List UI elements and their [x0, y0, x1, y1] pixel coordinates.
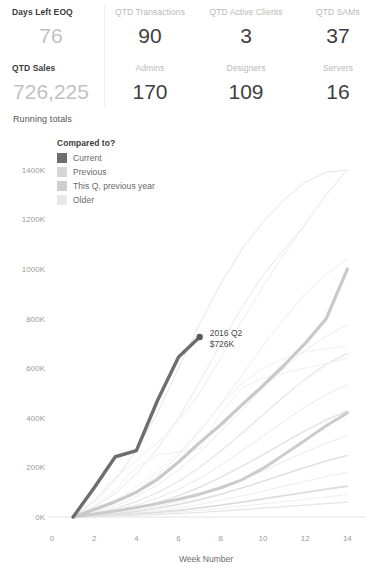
x-axis-tick-label: 12: [301, 534, 310, 543]
x-axis-tick-label: 0: [50, 534, 55, 543]
annotation-marker[interactable]: [196, 334, 202, 340]
legend-item-label: Previous: [73, 167, 106, 177]
kpi-value: 109: [228, 79, 263, 105]
x-axis-tick-label: 4: [134, 534, 139, 543]
kpi-qtd-active-clients[interactable]: QTD Active Clients 3: [196, 0, 296, 56]
legend-item-this-q-previous-year[interactable]: This Q, previous year: [57, 179, 217, 193]
kpi-value: 3: [240, 23, 252, 49]
legend-item-label: Older: [73, 195, 94, 205]
x-axis-tick-label: 10: [259, 534, 268, 543]
legend-item-current[interactable]: Current: [57, 151, 217, 165]
chart-line-previous[interactable]: [73, 269, 347, 517]
kpi-qtd-transactions[interactable]: QTD Transactions 90: [104, 0, 196, 56]
legend-swatch-icon: [57, 181, 67, 191]
legend-swatch-icon: [57, 153, 67, 163]
legend-item-older[interactable]: Older: [57, 193, 217, 207]
annotation-label-period: 2016 Q2: [210, 328, 243, 338]
y-axis-tick-label: 600K: [26, 364, 45, 373]
chart-line-older-9[interactable]: [73, 456, 347, 517]
y-axis-tick-label: 1000K: [22, 265, 46, 274]
x-axis-title: Week Number: [179, 554, 233, 564]
x-axis-tick-label: 6: [176, 534, 181, 543]
annotation-label-value: $726K: [210, 339, 235, 349]
legend-item-previous[interactable]: Previous: [57, 165, 217, 179]
y-axis-tick-label: 400K: [26, 414, 45, 423]
x-axis-tick-label: 14: [343, 534, 352, 543]
kpi-admins[interactable]: Admins 170: [104, 56, 196, 113]
kpi-value: 170: [132, 79, 167, 105]
kpi-days-left-eoq[interactable]: Days Left EOQ 76: [0, 0, 104, 56]
kpi-designers[interactable]: Designers 109: [196, 56, 296, 113]
y-axis-tick-label: 200K: [26, 463, 45, 472]
legend-title: Compared to?: [57, 138, 217, 148]
kpi-servers[interactable]: Servers 16: [296, 56, 380, 113]
x-axis-tick-label: 8: [219, 534, 224, 543]
legend-swatch-icon: [57, 195, 67, 205]
chart-line-older-4[interactable]: [73, 325, 347, 517]
kpi-value: 90: [138, 23, 161, 49]
legend-item-label: Current: [73, 153, 102, 163]
y-axis-tick-label: 0K: [35, 513, 45, 522]
kpi-qtd-sams[interactable]: QTD SAMs 37: [296, 0, 380, 56]
kpi-label: QTD SAMs: [316, 7, 360, 18]
kpi-label: Admins: [136, 63, 165, 74]
legend-swatch-icon: [57, 167, 67, 177]
kpi-label: Days Left EOQ: [12, 7, 73, 18]
kpi-value: 76: [39, 23, 76, 49]
kpi-summary-grid: Days Left EOQ 76 QTD Transactions 90 QTD…: [0, 0, 380, 113]
kpi-qtd-sales[interactable]: QTD Sales 726,225: [0, 56, 104, 113]
y-axis-tick-label: 800K: [26, 315, 45, 324]
y-axis-tick-label: 1200K: [22, 215, 46, 224]
kpi-label: QTD Active Clients: [209, 7, 282, 18]
chart-legend: Compared to? Current Previous This Q, pr…: [57, 138, 217, 207]
y-axis-tick-label: 1400K: [22, 166, 46, 175]
dashboard-root: Days Left EOQ 76 QTD Transactions 90 QTD…: [0, 0, 380, 578]
kpi-value: 37: [326, 23, 349, 49]
kpi-value: 726,225: [13, 79, 103, 105]
legend-item-label: This Q, previous year: [73, 181, 155, 191]
kpi-label: QTD Transactions: [115, 7, 185, 18]
kpi-label: Designers: [226, 63, 265, 74]
kpi-label: QTD Sales: [12, 63, 55, 74]
chart-title: Running totals: [13, 114, 72, 124]
x-axis-tick-label: 2: [92, 534, 97, 543]
kpi-value: 16: [326, 79, 349, 105]
kpi-label: Servers: [323, 63, 353, 74]
